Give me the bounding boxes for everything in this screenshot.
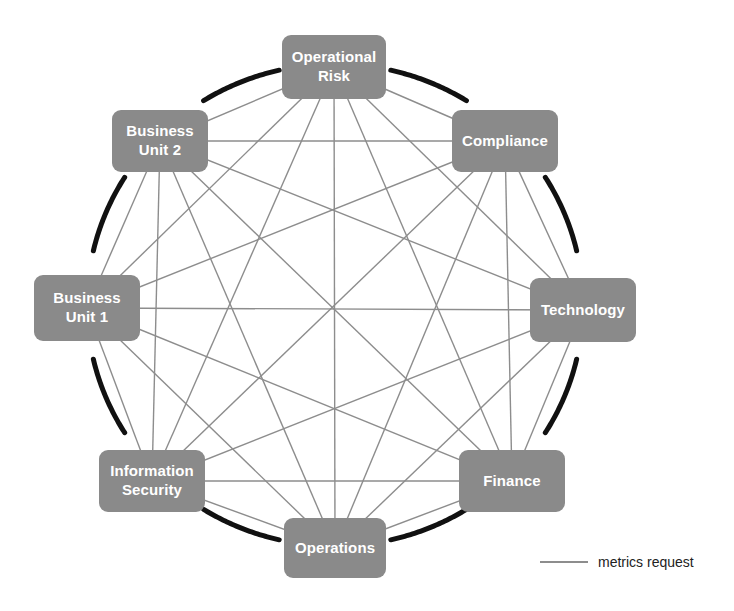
node-information-security[interactable]: Information Security bbox=[99, 450, 205, 512]
node-label-business-unit-2: Business Unit 2 bbox=[126, 122, 194, 160]
node-label-operational-risk: Operational Risk bbox=[292, 48, 376, 86]
ring-arc-segment bbox=[93, 177, 124, 251]
ring-arc-segment bbox=[391, 509, 467, 539]
node-technology[interactable]: Technology bbox=[530, 278, 636, 342]
node-business-unit-1[interactable]: Business Unit 1 bbox=[34, 275, 140, 341]
ring-arc-segment bbox=[545, 359, 576, 433]
diagram-canvas: Operational RiskComplianceTechnologyFina… bbox=[0, 0, 734, 611]
node-finance[interactable]: Finance bbox=[459, 450, 565, 512]
node-compliance[interactable]: Compliance bbox=[452, 110, 558, 172]
link-operational-risk-to-operations bbox=[334, 67, 335, 548]
link-information-security-to-business-unit-2 bbox=[152, 141, 160, 481]
link-operational-risk-to-business-unit-1 bbox=[87, 67, 334, 308]
legend-label: metrics request bbox=[598, 554, 694, 570]
node-label-compliance: Compliance bbox=[462, 132, 548, 151]
node-operations[interactable]: Operations bbox=[284, 518, 386, 578]
node-label-operations: Operations bbox=[295, 539, 375, 558]
node-label-information-security: Information Security bbox=[110, 462, 194, 500]
link-operational-risk-to-technology bbox=[334, 67, 583, 310]
node-operational-risk[interactable]: Operational Risk bbox=[282, 35, 386, 99]
ring-arc-segment bbox=[204, 70, 280, 100]
link-compliance-to-finance bbox=[505, 141, 512, 481]
legend: metrics request bbox=[540, 554, 694, 570]
legend-line-swatch-icon bbox=[540, 561, 588, 563]
node-label-business-unit-1: Business Unit 1 bbox=[53, 289, 121, 327]
node-label-finance: Finance bbox=[483, 472, 540, 491]
node-business-unit-2[interactable]: Business Unit 2 bbox=[112, 110, 208, 172]
node-label-technology: Technology bbox=[541, 301, 625, 320]
